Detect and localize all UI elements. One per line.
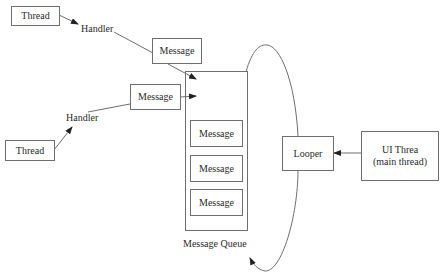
looper-label: Looper — [294, 148, 323, 160]
message-label: Message — [199, 163, 234, 175]
queue-message-2: Message — [190, 155, 243, 182]
queue-message-3: Message — [190, 189, 243, 216]
message-label: Message — [199, 197, 234, 209]
message-label: Message — [160, 45, 195, 57]
line-handler-to-message-top — [114, 32, 153, 53]
loop-looper-to-queue — [250, 170, 298, 271]
thread-label: Thread — [16, 145, 44, 157]
thread-box-top: Thread — [11, 6, 60, 26]
message-label: Message — [199, 128, 234, 140]
message-box-incoming-top: Message — [152, 38, 202, 64]
handler-label-top: Handler — [81, 23, 113, 35]
ui-thread-label-line1: UI Threa — [382, 144, 418, 156]
ui-thread-label-line2: (main thread) — [373, 156, 427, 168]
thread-label: Thread — [21, 10, 49, 22]
message-queue-label: Message Queue — [183, 238, 247, 250]
message-label: Message — [138, 91, 173, 103]
queue-message-1: Message — [190, 120, 243, 147]
loop-queue-to-looper — [246, 45, 298, 136]
message-box-incoming-bottom: Message — [130, 84, 181, 110]
looper-box: Looper — [282, 136, 334, 171]
arrow-thread-to-handler-top — [59, 15, 78, 24]
ui-thread-box: UI Threa (main thread) — [361, 131, 439, 181]
arrow-thread-to-handler-bottom — [54, 127, 72, 150]
line-handler-to-message-bottom — [88, 104, 130, 112]
handler-label-bottom: Handler — [66, 112, 98, 124]
thread-box-bottom: Thread — [5, 140, 55, 161]
